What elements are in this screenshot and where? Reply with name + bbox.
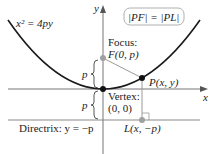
focus-point xyxy=(100,55,106,61)
focus-point-label: F(0, p) xyxy=(107,48,139,61)
upper-brace xyxy=(91,60,98,88)
directrix-label: Directrix: y = −p xyxy=(19,122,94,134)
p-lower-label: p xyxy=(81,99,88,111)
lower-brace xyxy=(91,91,98,119)
point-p-label: P(x, y) xyxy=(148,76,179,89)
focus-label: Focus: xyxy=(108,36,137,48)
y-axis-arrow-icon xyxy=(100,5,106,13)
y-axis-label: y xyxy=(93,2,99,14)
vertex-label: Vertex: xyxy=(108,90,140,102)
vertex-point-label: (0, 0) xyxy=(108,102,132,115)
equation-label: x² = 4py xyxy=(15,17,53,29)
condition-label: |PF| = |PL| xyxy=(128,11,179,23)
p-upper-label: p xyxy=(81,68,88,80)
vertex-point xyxy=(100,86,106,92)
x-axis-label: x xyxy=(202,91,208,103)
point-p xyxy=(139,75,145,81)
parabola-diagram: x² = 4py y x |PF| = |PL| Focus: F(0, p) … xyxy=(0,0,213,154)
point-l-label: L(x, −p) xyxy=(123,122,161,135)
pf-segment xyxy=(103,58,142,78)
